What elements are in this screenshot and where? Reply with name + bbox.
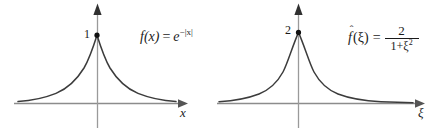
- fraction-numerator: 2: [394, 24, 409, 38]
- x-axis-label-left: x: [180, 106, 186, 119]
- plot-right-graphics: [215, 0, 439, 135]
- y-axis-left: [93, 4, 101, 129]
- f-hat-symbol: ˆf: [348, 30, 352, 46]
- peak-marker-right: [296, 30, 301, 35]
- x-axis-label-right: ξ: [418, 106, 424, 119]
- figure-container: 1 x f(x)=e−|x| 2 ξ ˆf (ξ)=: [0, 0, 439, 135]
- formula-left: f(x)=e−|x|: [140, 27, 193, 45]
- plot-left-graphics: [0, 0, 220, 135]
- fraction: 2 1+ξ2: [385, 24, 419, 52]
- fraction-denominator: 1+ξ2: [389, 39, 415, 53]
- formula-left-equals: =: [159, 29, 173, 44]
- peak-value-label-right: 2: [285, 24, 291, 36]
- x-axis-right: [217, 99, 425, 108]
- formula-right: ˆf (ξ)= 2 1+ξ2: [348, 24, 419, 52]
- formula-right-equals: =: [369, 30, 385, 46]
- plot-lorentzian: 2 ξ: [215, 0, 439, 135]
- formula-right-lhs: ˆf (ξ): [348, 30, 369, 46]
- peak-value-label-left: 1: [84, 28, 90, 40]
- peak-marker-left: [94, 33, 99, 38]
- formula-left-exponent: −|x|: [180, 27, 193, 37]
- hat-accent-icon: ˆ: [347, 23, 356, 35]
- y-axis-right: [294, 4, 302, 129]
- denominator-exponent: 2: [409, 38, 413, 47]
- plot-exponential: 1 x f(x)=e−|x|: [0, 0, 220, 135]
- formula-left-lhs: f(x): [140, 29, 159, 44]
